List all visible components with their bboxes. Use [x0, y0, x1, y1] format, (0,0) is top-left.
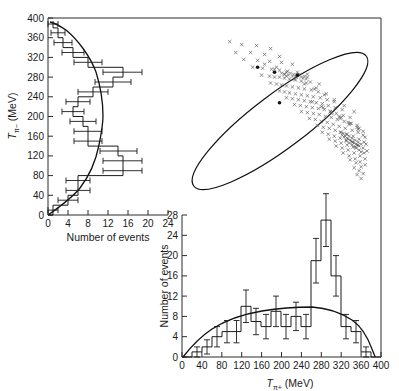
- scatter-point: [234, 51, 237, 54]
- scatter-point: [306, 111, 309, 114]
- scatter-point-heavy: [278, 101, 282, 105]
- scatter-point: [269, 47, 272, 50]
- bottom-x-title-sub: π+: [273, 384, 282, 391]
- scatter-point: [268, 74, 271, 77]
- bottom-panel-histogram-outline: [182, 220, 381, 357]
- bytick-4: 4: [172, 331, 178, 342]
- xtick-20: 20: [142, 218, 154, 229]
- scatter-point-heavy: [296, 73, 300, 77]
- scatter-point: [333, 98, 336, 101]
- scatter-point: [285, 96, 288, 99]
- scatter-point: [311, 100, 314, 103]
- scatter-point: [291, 63, 294, 66]
- bottom-panel-x-axis-title: Tπ+ (MeV): [267, 377, 314, 391]
- bottom-y-title-text: Number of events: [158, 245, 170, 328]
- scatter-point: [310, 88, 313, 91]
- scatter-point: [288, 77, 291, 80]
- scatter-point: [343, 127, 346, 130]
- left-panel-phase-space-curve: [48, 22, 103, 215]
- scatter-point: [339, 136, 342, 139]
- scatter-point: [291, 97, 294, 100]
- scatter-point: [260, 73, 263, 76]
- scatter-point: [348, 158, 351, 161]
- scatter-point: [300, 79, 303, 82]
- bottom-panel-axes: [182, 215, 381, 357]
- scatter-point: [294, 92, 297, 95]
- ytick-200: 200: [27, 111, 44, 122]
- bytick-28: 28: [167, 210, 179, 221]
- scatter-point: [317, 107, 320, 110]
- scatter-point: [322, 126, 325, 129]
- scatter-point: [348, 135, 351, 138]
- ytick-0: 0: [38, 210, 44, 221]
- scatter-point: [299, 104, 302, 107]
- scatter-point: [327, 104, 330, 107]
- left-panel-y-ticklabels: 0 40 80 120 160 200 240 280 320 360 400: [27, 13, 44, 221]
- physics-dalitz-figure: 0 40 80 120 160 200 240 280 320 360 400 …: [0, 0, 399, 391]
- scatter-point: [278, 55, 281, 58]
- ytick-120: 120: [27, 150, 44, 161]
- scatter-point: [334, 129, 337, 132]
- bottom-x-title-unit: (MeV): [285, 377, 314, 389]
- ytick-360: 360: [27, 32, 44, 43]
- scatter-point: [261, 67, 264, 70]
- scatter-point: [335, 144, 338, 147]
- bxtick-120: 120: [233, 360, 250, 371]
- scatter-point: [255, 44, 258, 47]
- scatter-point: [314, 118, 317, 121]
- scatter-point: [361, 146, 364, 149]
- scatter-point: [365, 149, 368, 152]
- scatter-point: [303, 99, 306, 102]
- scatter-point: [359, 177, 362, 180]
- scatter-point: [321, 131, 324, 134]
- scatter-point: [300, 110, 303, 113]
- scatter-point: [363, 157, 366, 160]
- scatter-point: [359, 150, 362, 153]
- scatter-point: [321, 102, 324, 105]
- scatter-point: [291, 85, 294, 88]
- bxtick-320: 320: [333, 360, 350, 371]
- scatter-point: [278, 75, 281, 78]
- scatter-point: [275, 82, 278, 85]
- scatter-point: [340, 108, 343, 111]
- scatter-point: [362, 151, 365, 154]
- xtick-16: 16: [122, 218, 134, 229]
- bxtick-40: 40: [196, 360, 208, 371]
- scatter-point-heavy: [256, 65, 260, 69]
- ytick-160: 160: [27, 131, 44, 142]
- ytick-80: 80: [33, 170, 45, 181]
- scatter-point: [297, 98, 300, 101]
- ytick-280: 280: [27, 72, 44, 83]
- scatter-point: [269, 81, 272, 84]
- left-panel-error-bars: [48, 21, 142, 213]
- bxtick-360: 360: [353, 360, 370, 371]
- scatter-points: [228, 40, 369, 180]
- left-y-title-unit-text: (MeV): [6, 93, 18, 122]
- scatter-point: [358, 154, 361, 157]
- bytick-0: 0: [172, 352, 178, 363]
- left-panel-y-axis-title: Tπ− (MeV): [6, 93, 20, 140]
- scatter-point: [303, 87, 306, 90]
- ytick-320: 320: [27, 52, 44, 63]
- scatter-point: [278, 69, 281, 72]
- left-panel-histogram-outline: [48, 21, 123, 215]
- svg-text:Tπ− (MeV): Tπ− (MeV): [6, 93, 20, 140]
- xtick-12: 12: [102, 218, 114, 229]
- scatter-points-dense: [280, 72, 363, 149]
- scatter-point: [297, 86, 300, 89]
- scatter-point: [319, 96, 322, 99]
- scatter-point: [280, 61, 283, 64]
- scatter-point: [363, 135, 366, 138]
- scatter-point: [283, 73, 286, 76]
- scatter-point: [280, 72, 283, 75]
- scatter-point: [332, 123, 335, 126]
- scatter-point: [306, 72, 309, 75]
- scatter-point: [352, 166, 355, 169]
- scatter-point: [348, 116, 351, 119]
- bxtick-280: 280: [313, 360, 330, 371]
- scatter-point: [318, 113, 321, 116]
- scatter-point: [263, 53, 266, 56]
- scatter-point: [312, 95, 315, 98]
- bxtick-240: 240: [293, 360, 310, 371]
- left-histogram-panel: 0 40 80 120 160 200 240 280 320 360 400 …: [6, 13, 174, 244]
